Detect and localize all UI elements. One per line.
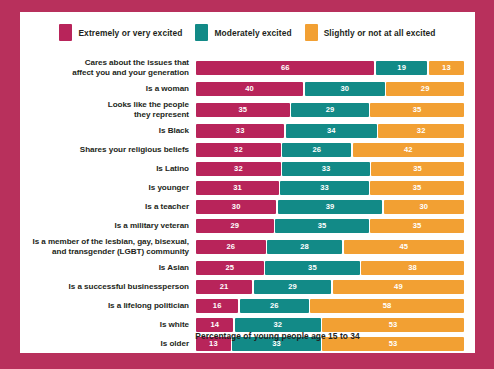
bar-segment-series-2[interactable]: 45 xyxy=(344,240,464,254)
bar-value-label: 29 xyxy=(326,106,335,114)
bar-segment-series-1[interactable]: 34 xyxy=(286,124,377,138)
bar-value-label: 30 xyxy=(420,203,429,211)
row-label-line: affect you and your generation xyxy=(20,68,189,77)
chart-row: Is younger313335 xyxy=(20,178,475,197)
bar-segment-series-0[interactable]: 33 xyxy=(196,124,284,138)
row-label: Is a teacher xyxy=(20,202,196,211)
bar-segment-series-2[interactable]: 35 xyxy=(370,103,464,117)
chart-row: Is a military veteran293535 xyxy=(20,216,475,235)
row-label: Shares your religious beliefs xyxy=(20,145,196,154)
bar-segment-series-0[interactable]: 35 xyxy=(196,103,290,117)
bar-value-label: 35 xyxy=(308,264,317,272)
bar-segment-series-1[interactable]: 35 xyxy=(265,261,360,275)
bar-segment-series-1[interactable]: 32 xyxy=(235,318,321,332)
bar-segment-series-1[interactable]: 33 xyxy=(280,181,368,195)
stacked-bar: 323335 xyxy=(196,162,475,176)
bar-segment-series-0[interactable]: 16 xyxy=(196,299,238,313)
bar-segment-series-2[interactable]: 58 xyxy=(310,299,464,313)
bar-segment-series-1[interactable]: 19 xyxy=(376,61,427,75)
row-label: Is a member of the lesbian, gay, bisexua… xyxy=(20,237,196,255)
chart-row: Shares your religious beliefs322642 xyxy=(20,140,475,159)
bar-segment-series-1[interactable]: 35 xyxy=(275,219,369,233)
bar-value-label: 26 xyxy=(312,146,321,154)
bar-value-label: 16 xyxy=(213,302,222,310)
legend-item-2[interactable]: Slightly or not at all excited xyxy=(305,24,436,41)
row-label-line: Is a lifelong politician xyxy=(20,301,189,310)
bar-value-label: 33 xyxy=(236,127,245,135)
bar-segment-series-0[interactable]: 26 xyxy=(196,240,266,254)
bar-segment-series-1[interactable]: 30 xyxy=(305,82,385,96)
row-label: Is white xyxy=(20,320,196,329)
row-label-line: Is a military veteran xyxy=(20,221,189,230)
legend-label-2: Slightly or not at all excited xyxy=(324,28,436,38)
bar-segment-series-1[interactable]: 33 xyxy=(282,162,369,176)
bar-segment-series-2[interactable]: 35 xyxy=(370,219,464,233)
bar-value-label: 31 xyxy=(233,184,242,192)
bar-value-label: 35 xyxy=(413,222,422,230)
bar-segment-series-0[interactable]: 29 xyxy=(196,219,274,233)
bar-segment-series-2[interactable]: 53 xyxy=(322,318,464,332)
bar-segment-series-0[interactable]: 21 xyxy=(196,280,252,294)
bar-segment-series-2[interactable]: 42 xyxy=(353,143,464,157)
bar-segment-series-0[interactable]: 25 xyxy=(196,261,264,275)
row-label: Looks like the peoplethey represent xyxy=(20,100,196,118)
bar-value-label: 32 xyxy=(234,165,243,173)
bar-segment-series-0[interactable]: 32 xyxy=(196,162,281,176)
stacked-bar: 403029 xyxy=(196,82,475,96)
bar-segment-series-0[interactable]: 32 xyxy=(196,143,281,157)
chart-row: Is a woman403029 xyxy=(20,79,475,98)
bar-segment-series-0[interactable]: 30 xyxy=(196,200,276,214)
row-label: Is a lifelong politician xyxy=(20,301,196,310)
bar-value-label: 19 xyxy=(397,64,406,72)
bar-value-label: 53 xyxy=(389,321,398,329)
bar-segment-series-0[interactable]: 66 xyxy=(196,61,374,75)
bar-segment-series-1[interactable]: 28 xyxy=(267,240,342,254)
chart-footnote: Percentage of young people age 15 to 34 xyxy=(20,331,475,341)
row-label-line: Is Asian xyxy=(20,263,189,272)
bar-segment-series-2[interactable]: 49 xyxy=(333,280,464,294)
bar-value-label: 40 xyxy=(245,85,254,93)
bar-value-label: 30 xyxy=(340,85,349,93)
row-label: Is Latino xyxy=(20,164,196,173)
bar-segment-series-2[interactable]: 35 xyxy=(371,162,464,176)
bar-value-label: 14 xyxy=(210,321,219,329)
bar-segment-series-1[interactable]: 26 xyxy=(282,143,351,157)
bar-segment-series-2[interactable]: 38 xyxy=(361,261,464,275)
bar-segment-series-0[interactable]: 31 xyxy=(196,181,279,195)
bar-value-label: 66 xyxy=(281,64,290,72)
bar-value-label: 28 xyxy=(300,243,309,251)
chart-row: Is Latino323335 xyxy=(20,159,475,178)
row-label-line: Is a teacher xyxy=(20,202,189,211)
stacked-bar: 322642 xyxy=(196,143,475,157)
bar-segment-series-1[interactable]: 29 xyxy=(291,103,369,117)
legend-label-0: Extremely or very excited xyxy=(78,28,182,38)
bar-segment-series-1[interactable]: 29 xyxy=(254,280,332,294)
legend-item-1[interactable]: Moderately excited xyxy=(195,24,291,41)
bar-value-label: 21 xyxy=(220,283,229,291)
bar-value-label: 32 xyxy=(234,146,243,154)
stacked-bar: 253538 xyxy=(196,261,475,275)
bar-segment-series-0[interactable]: 40 xyxy=(196,82,303,96)
chart-row: Is a successful businessperson212949 xyxy=(20,277,475,296)
stacked-bar: 262845 xyxy=(196,240,475,254)
row-label-line: Is a woman xyxy=(20,84,189,93)
row-label-line: Is a successful businessperson xyxy=(20,282,189,291)
legend-label-1: Moderately excited xyxy=(214,28,291,38)
bar-segment-series-1[interactable]: 39 xyxy=(278,200,382,214)
bar-value-label: 32 xyxy=(273,321,282,329)
bar-value-label: 32 xyxy=(417,127,426,135)
bar-segment-series-2[interactable]: 13 xyxy=(429,61,464,75)
bar-segment-series-2[interactable]: 30 xyxy=(384,200,464,214)
bar-value-label: 35 xyxy=(413,165,422,173)
bar-segment-series-1[interactable]: 26 xyxy=(240,299,309,313)
bar-segment-series-2[interactable]: 32 xyxy=(378,124,464,138)
bar-value-label: 26 xyxy=(226,243,235,251)
bar-value-label: 35 xyxy=(239,106,248,114)
bar-segment-series-2[interactable]: 29 xyxy=(386,82,464,96)
bar-segment-series-2[interactable]: 35 xyxy=(370,181,464,195)
bar-segment-series-0[interactable]: 14 xyxy=(196,318,233,332)
legend-swatch-extremely-very-excited xyxy=(59,24,72,41)
chart-row: Is a lifelong politician162658 xyxy=(20,296,475,315)
legend-item-0[interactable]: Extremely or very excited xyxy=(59,24,182,41)
stacked-bar: 352935 xyxy=(196,103,475,117)
